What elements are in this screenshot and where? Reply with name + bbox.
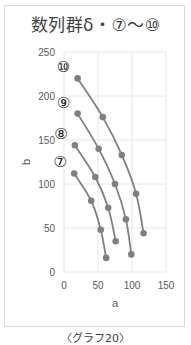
series-label: ⑨ — [57, 94, 70, 112]
data-point-marker — [97, 226, 104, 233]
y-tick-label: 250 — [38, 47, 55, 58]
series-label: ⑦ — [53, 153, 66, 171]
y-tick-label: 0 — [49, 267, 55, 278]
y-tick-label: 200 — [38, 91, 55, 102]
data-point-marker — [88, 197, 95, 204]
data-point-marker — [99, 114, 106, 121]
data-point-marker — [119, 152, 126, 159]
data-point-marker — [72, 142, 79, 149]
data-point-marker — [112, 181, 119, 188]
series-line — [74, 173, 106, 257]
figure-caption: 〈グラフ20〉 — [0, 329, 191, 345]
data-point-marker — [74, 75, 81, 82]
data-point-marker — [74, 110, 81, 117]
x-tick-label: 150 — [158, 280, 175, 291]
data-point-marker — [133, 190, 140, 197]
x-axis-label: a — [112, 297, 119, 309]
data-point-marker — [112, 238, 119, 245]
y-axis-label: b — [20, 159, 32, 165]
x-tick-label: 0 — [61, 280, 67, 291]
data-point-marker — [105, 204, 112, 211]
data-point-marker — [128, 251, 135, 258]
y-tick-label: 100 — [38, 179, 55, 190]
y-tick-label: 150 — [38, 135, 55, 146]
series-line — [75, 145, 116, 241]
data-point-marker — [92, 174, 99, 181]
x-tick-label: 100 — [124, 280, 141, 291]
x-tick-label: 50 — [92, 280, 104, 291]
series-label: ⑩ — [57, 58, 70, 76]
data-point-marker — [123, 216, 130, 223]
series-label: ⑧ — [54, 125, 67, 143]
series-line — [78, 78, 144, 233]
data-point-marker — [103, 255, 110, 262]
data-point-marker — [140, 230, 147, 237]
data-point-marker — [95, 146, 102, 153]
data-point-marker — [71, 170, 78, 177]
y-tick-label: 50 — [44, 223, 56, 234]
